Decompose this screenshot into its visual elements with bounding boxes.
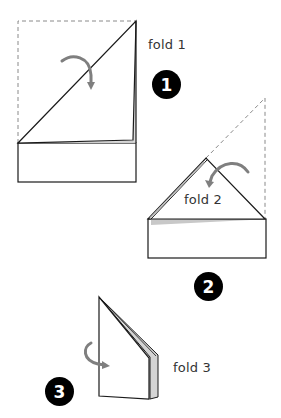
step-1-badge: 1 xyxy=(152,70,181,99)
paper-bottom xyxy=(18,143,136,182)
folded-triangle xyxy=(148,158,265,219)
step-2-badge: 2 xyxy=(194,272,223,301)
folded-triangle xyxy=(18,21,136,143)
step-3-badge: 3 xyxy=(45,377,74,406)
step-1-drawing xyxy=(18,21,136,182)
step-2-label: fold 2 xyxy=(184,192,222,207)
step-3-label: fold 3 xyxy=(173,360,211,375)
origami-diagram xyxy=(0,0,281,418)
step-1-label: fold 1 xyxy=(148,37,186,52)
step-3-drawing xyxy=(85,297,158,399)
paper-bottom xyxy=(148,219,266,258)
step-2-drawing xyxy=(148,98,266,258)
front-panel xyxy=(99,297,149,399)
